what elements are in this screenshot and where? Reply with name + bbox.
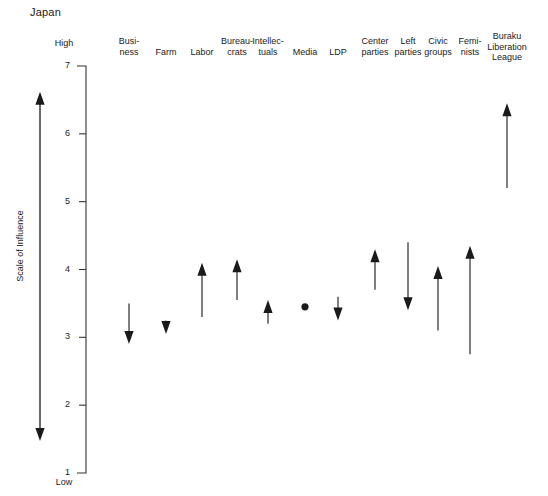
arrow-head-business bbox=[124, 331, 133, 344]
arrow-head-center-parties bbox=[370, 249, 379, 262]
datamark-business[interactable] bbox=[124, 303, 133, 344]
datamark-ldp[interactable] bbox=[333, 297, 342, 321]
datamark-feminists[interactable] bbox=[465, 246, 474, 355]
datamark-civic-groups[interactable] bbox=[433, 266, 442, 330]
arrow-head-farm bbox=[161, 321, 170, 334]
datamark-media[interactable] bbox=[301, 303, 308, 310]
datamark-buraku-liberation-league[interactable] bbox=[502, 103, 511, 188]
datamark-farm[interactable] bbox=[161, 320, 170, 334]
datamark-intellectuals[interactable] bbox=[263, 300, 272, 324]
arrow-head-ldp bbox=[333, 307, 342, 320]
datamark-labor[interactable] bbox=[197, 263, 206, 317]
arrow-head-intellectuals bbox=[263, 300, 272, 313]
dot-media bbox=[301, 303, 308, 310]
arrow-head-buraku-liberation-league bbox=[502, 103, 511, 116]
chart-root: Japan High Low Scale of Influence 765432… bbox=[0, 0, 548, 496]
datamark-center-parties[interactable] bbox=[370, 249, 379, 290]
datamark-bureaucrats[interactable] bbox=[232, 259, 241, 300]
arrow-head-left-parties bbox=[403, 297, 412, 310]
datamark-left-parties[interactable] bbox=[403, 242, 412, 310]
arrow-head-labor bbox=[197, 263, 206, 276]
arrow-head-civic-groups bbox=[433, 266, 442, 279]
arrow-head-feminists bbox=[465, 246, 474, 259]
data-marks-layer bbox=[0, 0, 548, 496]
arrow-head-bureaucrats bbox=[232, 259, 241, 272]
